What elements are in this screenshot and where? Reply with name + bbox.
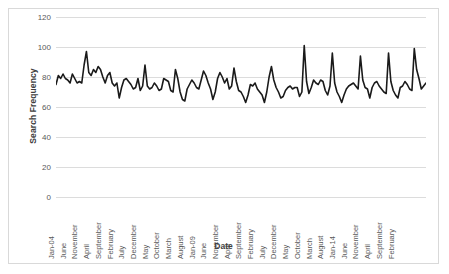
series-line-chart xyxy=(56,17,426,197)
plot-area: 020406080100120 xyxy=(56,17,426,197)
y-axis-tick-label: 120 xyxy=(38,13,51,22)
y-axis-tick-label: 40 xyxy=(42,133,51,142)
y-axis-tick-label: 100 xyxy=(38,43,51,52)
y-axis-tick-label: 80 xyxy=(42,73,51,82)
y-axis-tick-label: 20 xyxy=(42,163,51,172)
x-axis-title: Date xyxy=(9,241,438,251)
gridline: 0 xyxy=(56,197,426,198)
chart-container: Search Frequency 020406080100120 Jan-04J… xyxy=(8,8,439,264)
y-axis-tick-label: 60 xyxy=(42,103,51,112)
y-axis-title: Search Frequency xyxy=(28,36,38,176)
y-axis-tick-label: 0 xyxy=(47,193,51,202)
series-polyline xyxy=(56,46,426,103)
